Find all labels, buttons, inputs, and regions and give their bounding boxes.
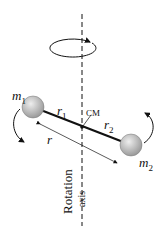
- label-axis: axis: [77, 191, 87, 207]
- label-rotation: Rotation: [61, 169, 74, 214]
- label-r2: r2: [104, 118, 114, 135]
- rotation-arrow-icon: [50, 39, 96, 57]
- label-m2: m2: [139, 156, 153, 173]
- label-m1: m1: [12, 89, 26, 106]
- mass1-motion-arrow-icon: [14, 109, 24, 142]
- mass2-motion-arrow-icon: [144, 113, 153, 143]
- mass-2: [120, 134, 142, 156]
- label-r: r: [47, 133, 52, 146]
- label-cm: CM: [86, 108, 100, 118]
- label-r1: r1: [57, 104, 67, 121]
